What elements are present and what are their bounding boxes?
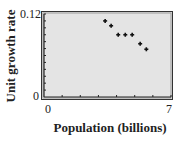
x-tick-max: 7 [166, 102, 172, 117]
x-tick-min: 0 [45, 102, 51, 117]
x-axis-label: Population (billions) [40, 120, 180, 136]
plot-frame [42, 12, 173, 100]
y-axis-label: Unit growth rate [3, 1, 19, 111]
y-tick-min: 0 [33, 89, 39, 104]
y-tick-max: 0.12 [20, 7, 41, 22]
